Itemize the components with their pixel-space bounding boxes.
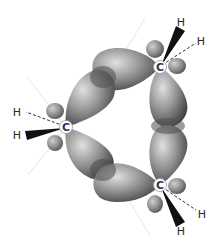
h-bottom-dash-label: H [198, 208, 206, 221]
ch-lobe [47, 135, 63, 151]
h-top-wedge-label: H [177, 16, 185, 29]
cyclopropane-bent-bond-diagram: C C C H H H H H H [0, 0, 220, 246]
h-top-dash-label: H [197, 35, 205, 48]
ch-lobe [147, 195, 163, 213]
ch-lobe [46, 103, 64, 119]
h-bottom-wedge-label: H [177, 225, 185, 238]
carbon-left-label: C [62, 121, 70, 134]
overlap-region [90, 66, 116, 88]
carbon-top-label: C [156, 61, 164, 74]
carbon-bottom-label: C [156, 179, 164, 192]
overlap-region [151, 118, 185, 134]
overlap-region [90, 159, 116, 181]
ch-lobe [146, 40, 164, 58]
ch-lobe [168, 178, 186, 194]
h-left-dash-label: H [13, 106, 21, 119]
h-left-wedge-label: H [13, 129, 21, 142]
ch-lobe [168, 58, 186, 74]
guide-line [27, 77, 66, 127]
